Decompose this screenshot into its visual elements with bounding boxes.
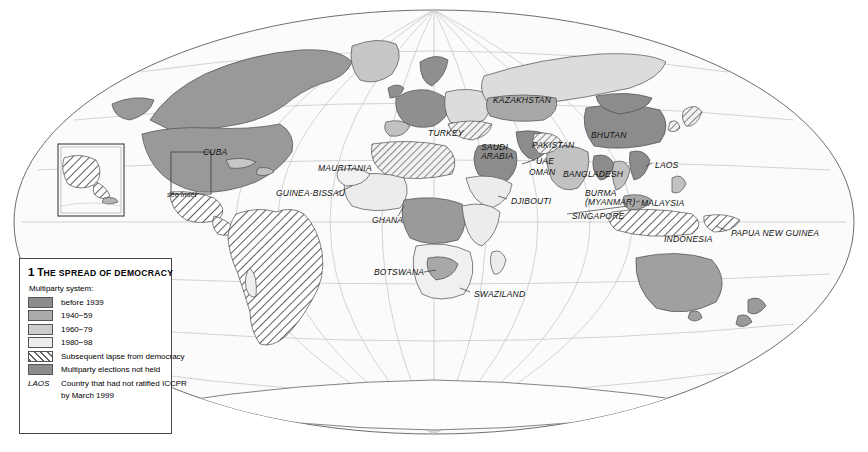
label-swaziland: SWAZILAND — [474, 290, 525, 300]
legend-swatch-before-1939 — [28, 297, 53, 308]
label-guinea-bissau: GUINEA-BISSAU — [276, 189, 345, 199]
legend-swatch-1960-79 — [28, 324, 53, 335]
label-malaysia: MALAYSIA — [641, 199, 685, 209]
region-north-africa — [371, 141, 455, 178]
label-djibouti: DJIBOUTI — [511, 197, 551, 207]
label-turkey: TURKEY — [428, 129, 464, 139]
legend-swatch-1980-98 — [28, 337, 53, 348]
label-indonesia: INDONESIA — [664, 235, 713, 245]
legend-label-iccpr-line1: Country that had not ratified ICCPR — [61, 379, 187, 388]
region-central-africa — [402, 198, 465, 244]
label-ghana: GHANA — [372, 216, 403, 226]
label-burma-myanmar: BURMA (MYANMAR) — [585, 189, 635, 207]
label-laos: LAOS — [655, 161, 678, 171]
legend-item-1940-59: 1940−59 — [28, 310, 163, 322]
legend-label-before-1939: before 1939 — [61, 298, 104, 307]
label-kazakhstan: KAZAKHSTAN — [493, 96, 551, 106]
legend-item-lapse: Subsequent lapse from democracy — [28, 350, 163, 362]
label-uae: UAE — [536, 157, 554, 167]
legend-swatch-no-elections — [28, 364, 53, 375]
label-cuba: CUBA — [203, 148, 227, 158]
map-inset — [58, 144, 124, 216]
legend-item-no-elections: Multiparty elections not held — [28, 364, 163, 376]
label-papua-new-guinea: PAPUA NEW GUINEA — [731, 229, 819, 239]
legend-item-iccpr: LAOS Country that had not ratified ICCPR — [28, 377, 163, 389]
label-saudi-arabia: SAUDI ARABIA — [481, 143, 513, 161]
label-see-inset: see inset — [167, 190, 197, 200]
legend-panel: 1 THE SPREAD OF DEMOCRACY Multiparty sys… — [19, 258, 172, 434]
legend-item-1980-98: 1980−98 — [28, 337, 163, 349]
label-botswana: BOTSWANA — [374, 268, 424, 278]
legend-number: 1 — [28, 266, 34, 278]
label-mauritania: MAURITANIA — [318, 164, 372, 174]
inset-mexico — [63, 155, 100, 188]
legend-swatch-1940-59 — [28, 310, 53, 321]
label-oman: OMAN — [529, 168, 555, 178]
legend-label-1980-98: 1980−98 — [61, 338, 92, 347]
label-singapore: SINGAPORE — [572, 212, 624, 222]
legend-item-before-1939: before 1939 — [28, 296, 163, 308]
legend-swatch-lapse — [28, 351, 53, 362]
label-bangladesh: BANGLADESH — [563, 170, 623, 180]
legend-code-laos: LAOS — [28, 379, 53, 388]
legend-label-lapse: Subsequent lapse from democracy — [61, 352, 185, 361]
map-figure: CUBA see inset MAURITANIA GUINEA-BISSAU … — [0, 0, 868, 452]
label-bhutan: BHUTAN — [591, 131, 627, 141]
legend-label-no-elections: Multiparty elections not held — [61, 365, 160, 374]
legend-subtitle: Multiparty system: — [29, 284, 163, 293]
legend-label-1960-79: 1960−79 — [61, 325, 92, 334]
legend-label-1940-59: 1940−59 — [61, 311, 92, 320]
legend-title: 1 THE SPREAD OF DEMOCRACY — [28, 266, 163, 278]
legend-item-1960-79: 1960−79 — [28, 323, 163, 335]
legend-label-iccpr-line2: by March 1999 — [61, 391, 163, 400]
legend-title-rest: HE SPREAD OF DEMOCRACY — [44, 268, 174, 278]
label-pakistan: PAKISTAN — [532, 141, 574, 151]
